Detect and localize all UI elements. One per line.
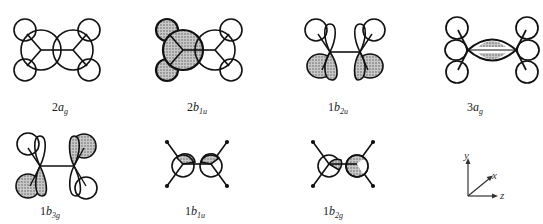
orbital-label-2b1u: 2b1u [187,101,207,113]
orbital-2ag-diagram [12,12,102,88]
axis-label-y: y [464,150,469,161]
orbital-label-1b2u: 1b2u [328,101,348,113]
orbital-2b1u-diagram [154,12,244,88]
orbital-label-1b3g: 1b3g [40,205,60,217]
orbital-label-3ag: 3ag [467,101,483,113]
orbital-label-1b2g: 1b2g [323,205,343,217]
axis-label-x: x [492,170,497,181]
orbital-1b1u-diagram [165,140,229,190]
orbital-3ag-diagram [444,15,540,85]
orbital-label-2ag: 2ag [52,101,68,113]
orbital-1b2u-diagram [300,14,390,86]
orbital-1b3g-diagram [12,130,100,202]
orbital-1b2g-diagram [311,140,375,190]
axis-label-z: z [500,190,504,201]
orbital-label-1b1u: 1b1u [185,205,205,217]
